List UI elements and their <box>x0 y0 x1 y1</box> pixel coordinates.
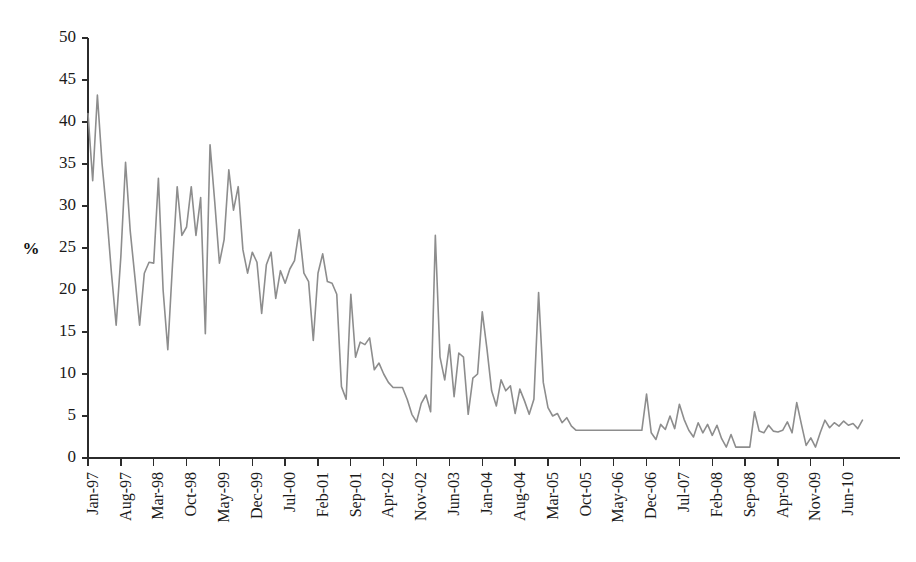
y-axis-tick-label: 20 <box>59 279 76 298</box>
y-axis-tick-label: 30 <box>59 195 76 214</box>
x-axis-tick-label: Jan-04 <box>478 472 495 515</box>
x-axis-tick-label: Feb-08 <box>708 472 725 517</box>
x-axis-tick-label: Mar-98 <box>149 472 166 520</box>
x-axis-tick-label: Jun-03 <box>445 472 462 516</box>
x-axis-tick-label: Aug-97 <box>117 472 135 521</box>
x-axis-tick-label: Sep-01 <box>347 472 365 517</box>
x-axis-tick-label: Aug-04 <box>511 472 529 521</box>
y-axis-title: % <box>23 239 40 258</box>
x-axis-tick-label: Jul-00 <box>281 472 298 512</box>
y-axis-tick-label: 25 <box>59 237 76 256</box>
x-axis-tick-label: Feb-01 <box>314 472 331 517</box>
y-axis-tick-label: 35 <box>59 153 76 172</box>
line-chart: 05101520253035404550 Jan-97Aug-97Mar-98O… <box>0 0 916 562</box>
x-axis-tick-label: Oct-98 <box>182 472 199 516</box>
x-axis-tick-label: Sep-08 <box>741 472 759 517</box>
x-axis-tick-label: May-99 <box>215 472 233 523</box>
x-axis-tick-label: Apr-02 <box>379 472 397 518</box>
x-axis-tick-label: Apr-09 <box>774 472 792 518</box>
x-axis-tick-label: Nov-09 <box>806 472 823 521</box>
y-axis-tick-label: 40 <box>59 111 76 130</box>
y-axis-tick-label: 15 <box>59 321 76 340</box>
x-axis-tick-label: May-06 <box>609 472 627 523</box>
y-axis-tick-label: 0 <box>68 447 77 466</box>
x-axis-tick-label: Mar-05 <box>544 472 561 520</box>
chart-container: 05101520253035404550 Jan-97Aug-97Mar-98O… <box>0 0 916 562</box>
y-axis-tick-label: 50 <box>59 27 76 46</box>
x-axis-tick-label: Oct-05 <box>577 472 594 516</box>
y-axis-tick-label: 45 <box>59 69 76 88</box>
y-axis-tick-label: 10 <box>59 363 76 382</box>
x-axis-tick-label: Jan-97 <box>84 472 101 515</box>
x-axis-tick-label: Nov-02 <box>412 472 429 521</box>
x-axis-tick-label: Dec-06 <box>642 472 659 519</box>
x-axis-tick-label: Jun-10 <box>839 472 856 516</box>
x-axis-tick-label: Dec-99 <box>248 472 265 519</box>
y-axis-tick-label: 5 <box>68 405 77 424</box>
x-axis-tick-label: Jul-07 <box>675 472 692 512</box>
